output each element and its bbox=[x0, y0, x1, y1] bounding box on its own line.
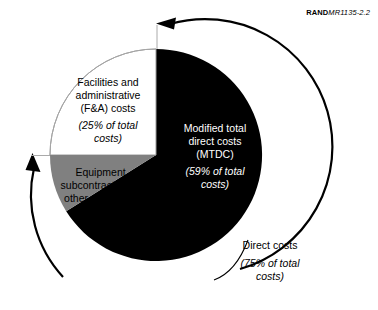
slice-label-mtdc-line2: direct costs bbox=[188, 135, 241, 147]
callout-label-direct-costs: Direct costs (75% of totalcosts) bbox=[214, 239, 326, 282]
slice-label-fa-percent-line1: (25% of total bbox=[79, 119, 138, 131]
slice-label-fa-percent: (25% of totalcosts) bbox=[56, 119, 160, 145]
slice-label-equipment-percent: (16% of totalcosts) bbox=[36, 209, 168, 235]
direct-costs-arrowhead-icon bbox=[156, 18, 176, 30]
slice-label-mtdc-percent-line1: (59% of total bbox=[186, 165, 245, 177]
slice-label-fa-line1: Facilities and bbox=[77, 76, 138, 88]
callout-label-direct-costs-percent-line1: (75% of total bbox=[241, 257, 300, 269]
slice-label-fa-line2: administrative bbox=[76, 89, 141, 101]
slice-label-fa: Facilities and administrative (F&A) cost… bbox=[56, 76, 160, 145]
slice-label-mtdc-percent-line2: costs) bbox=[201, 178, 229, 190]
slice-label-equipment-percent-line1: (16% of total bbox=[73, 209, 132, 221]
slice-label-equipment-percent-line2: costs) bbox=[88, 222, 116, 234]
slice-label-mtdc: Modified total direct costs (MTDC) (59% … bbox=[160, 122, 270, 191]
callout-label-direct-costs-line1: Direct costs bbox=[243, 239, 298, 251]
slice-label-fa-percent-line2: costs) bbox=[94, 132, 122, 144]
slice-label-equipment-line2: subcontracts, and bbox=[61, 179, 144, 191]
slice-label-mtdc-line1: Modified total bbox=[184, 122, 246, 134]
slice-label-fa-line3: (F&A) costs bbox=[81, 102, 136, 114]
slice-label-mtdc-line3: (MTDC) bbox=[196, 148, 233, 160]
callout-label-direct-costs-percent-line2: costs) bbox=[256, 270, 284, 282]
slice-label-mtdc-percent: (59% of totalcosts) bbox=[160, 165, 270, 191]
callout-label-direct-costs-percent: (75% of totalcosts) bbox=[214, 257, 326, 283]
slice-label-equipment: Equipment, subcontracts, and other exclu… bbox=[36, 166, 168, 235]
cost-structure-figure: RANDMR1135-2.2 Facilities and administra… bbox=[0, 0, 378, 310]
slice-label-equipment-line3: other exclusions bbox=[64, 192, 140, 204]
slice-label-equipment-line1: Equipment, bbox=[75, 166, 128, 178]
